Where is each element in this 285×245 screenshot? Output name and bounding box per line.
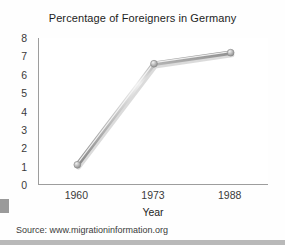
y-tick-label: 4 [21, 106, 27, 117]
data-point-marker [227, 49, 234, 56]
plot-area [39, 38, 268, 184]
y-tick-label: 2 [21, 143, 27, 154]
x-tick-label: 1960 [65, 190, 88, 201]
y-tick-label: 1 [21, 161, 27, 172]
y-tick-label: 5 [21, 88, 27, 99]
chart-title: Percentage of Foreigners in Germany [0, 12, 285, 24]
x-axis-title: Year [38, 206, 268, 218]
y-tick-label: 7 [21, 51, 27, 62]
y-tick-label: 6 [21, 70, 27, 81]
plot-frame [38, 38, 268, 185]
y-axis-tick-labels: 8 7 6 5 4 3 2 1 0 [0, 38, 32, 185]
bottom-edge-band [0, 240, 285, 245]
x-tick-label: 1973 [141, 190, 164, 201]
data-point-marker [151, 60, 158, 67]
x-axis-tick-labels: 1960 1973 1988 [38, 190, 268, 206]
left-edge-mark [0, 199, 9, 213]
y-tick-label: 8 [21, 33, 27, 44]
y-tick-label: 0 [21, 180, 27, 191]
x-tick-label: 1988 [218, 190, 241, 201]
chart-figure: Percentage of Foreigners in Germany 8 7 … [0, 0, 285, 245]
y-tick-label: 3 [21, 125, 27, 136]
data-point-marker [74, 161, 81, 168]
line-series [39, 38, 269, 185]
source-note: Source: www.migrationinformation.org [16, 225, 168, 235]
